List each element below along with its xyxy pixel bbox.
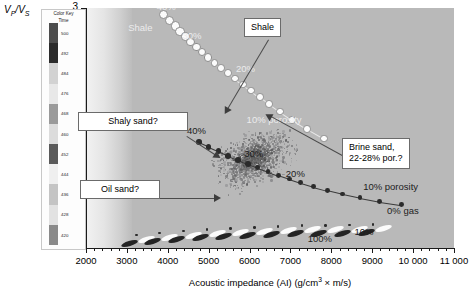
color-key-ramp <box>49 23 58 245</box>
scatter-point <box>278 137 280 139</box>
scatter-point <box>247 169 249 171</box>
x-tick-minor <box>421 249 422 251</box>
callout-shaly-sand-label: Shaly sand? <box>108 116 158 126</box>
color-key-tick-label: 460 <box>61 132 68 137</box>
scatter-point <box>279 148 281 150</box>
x-tick-minor <box>225 249 226 251</box>
x-tick-minor <box>94 249 95 251</box>
scatter-point <box>233 148 235 150</box>
x-tick-minor <box>397 249 398 251</box>
callout-brine-line2: 22-28% por.? <box>349 153 403 163</box>
x-tick <box>168 249 169 253</box>
scatter-point <box>265 161 267 163</box>
x-tick-minor <box>266 249 267 251</box>
x-tick <box>86 249 87 253</box>
x-axis-title-tail: × m/s) <box>322 277 351 288</box>
scatter-point <box>264 159 266 161</box>
scatter-point <box>282 147 284 149</box>
scatter-point <box>283 134 285 136</box>
scatter-point <box>270 145 272 147</box>
scatter-point <box>273 171 275 173</box>
scatter-point <box>254 173 256 175</box>
callout-brine-sand[interactable]: Brine sand, 22-28% por.? <box>342 138 410 169</box>
scatter-point <box>218 175 220 177</box>
scatter-point <box>258 139 260 141</box>
scatter-point <box>296 148 298 150</box>
x-tick-minor <box>429 249 430 251</box>
x-axis-title-main: Acoustic impedance (AI) (g/cm <box>189 277 318 288</box>
gas-cap-dot <box>158 232 161 235</box>
scatter-point <box>213 165 215 167</box>
callout-shaly-sand[interactable]: Shaly sand? <box>78 112 188 131</box>
gas-cap-dot <box>135 234 138 237</box>
color-key-tick-label: 500 <box>61 31 68 36</box>
scatter-point <box>245 138 247 140</box>
scatter-point <box>249 177 251 179</box>
scatter-point <box>248 175 250 177</box>
color-key-title-line2: Time <box>58 18 68 23</box>
scatter-point <box>220 174 222 176</box>
scatter-point <box>244 168 246 170</box>
scatter-point <box>288 137 290 139</box>
scatter-point <box>241 191 243 193</box>
callout-oil-sand[interactable]: Oil sand? <box>80 180 160 199</box>
scatter-point <box>255 145 257 147</box>
plot-annotation: 30% <box>244 148 263 159</box>
x-tick <box>413 249 414 253</box>
scatter-point <box>278 166 280 168</box>
x-tick-minor <box>446 249 447 251</box>
scatter-point <box>219 181 221 183</box>
x-tick-minor <box>405 249 406 251</box>
x-tick-label: 6000 <box>239 255 260 266</box>
scatter-point <box>230 142 232 144</box>
callout-shale[interactable]: Shale <box>244 18 281 37</box>
scatter-point <box>274 149 276 151</box>
chart-canvas: VP/VS 40%Shale30%20%10% porosity40%30%20… <box>0 0 475 302</box>
scatter-point <box>248 181 250 183</box>
gas-lozenge-light <box>374 224 392 233</box>
plot-annotation: 10% porosity <box>363 181 418 192</box>
brine-trend-node <box>235 157 241 163</box>
color-key-swatch <box>49 184 58 204</box>
x-tick-minor <box>315 249 316 251</box>
scatter-point <box>251 159 253 161</box>
x-tick-minor <box>274 249 275 251</box>
scatter-point <box>256 159 258 161</box>
scatter-point <box>276 156 278 158</box>
scatter-point <box>270 179 272 181</box>
scatter-point <box>276 168 278 170</box>
scatter-point <box>289 153 291 155</box>
x-tick-minor <box>323 249 324 251</box>
scatter-point <box>279 160 281 162</box>
x-tick-minor <box>282 249 283 251</box>
scatter-point <box>287 145 289 147</box>
x-tick-minor <box>111 249 112 251</box>
scatter-point <box>264 140 266 142</box>
y-axis-title-s: S <box>25 10 30 17</box>
scatter-point <box>244 142 246 144</box>
scatter-point <box>282 153 284 155</box>
scatter-point <box>256 185 258 187</box>
scatter-point <box>250 141 252 143</box>
scatter-point <box>296 160 298 162</box>
scatter-point <box>272 159 274 161</box>
y-axis-title-v1: V <box>4 4 11 15</box>
scatter-point <box>234 154 236 156</box>
x-tick-minor <box>233 249 234 251</box>
color-key-swatch <box>49 205 58 225</box>
scatter-point <box>281 169 283 171</box>
scatter-point <box>279 163 281 165</box>
scatter-point <box>275 151 277 153</box>
scatter-point <box>256 175 258 177</box>
scatter-point <box>262 181 264 183</box>
scatter-point <box>259 136 261 138</box>
y-axis-title-p: P <box>11 10 16 17</box>
scatter-point <box>231 181 233 183</box>
gas-cap-dot <box>229 227 232 230</box>
scatter-point <box>239 141 241 143</box>
scatter-point <box>277 143 279 145</box>
scatter-point <box>287 141 289 143</box>
shale-trend-node <box>303 125 311 133</box>
scatter-point <box>260 173 262 175</box>
x-tick-minor <box>135 249 136 251</box>
